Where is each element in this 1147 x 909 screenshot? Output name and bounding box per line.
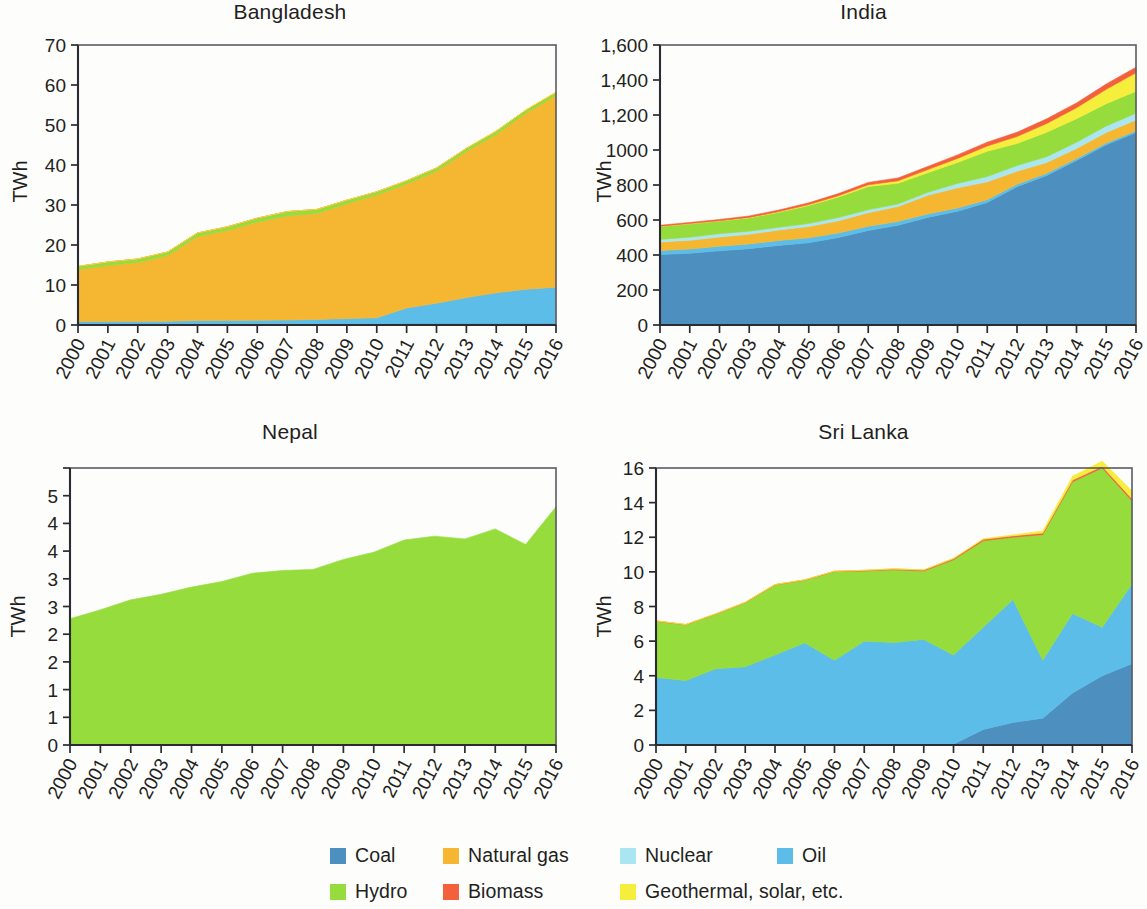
legend-item-nuclear: Nuclear: [620, 844, 713, 867]
y-tick-label: 1,200: [600, 105, 648, 126]
legend-item-natural-gas: Natural gas: [443, 844, 569, 867]
legend-item-biomass: Biomass: [443, 880, 543, 903]
legend-label-coal: Coal: [355, 844, 396, 867]
x-tick-label: 2002: [104, 755, 142, 802]
x-tick-label: 2010: [350, 335, 388, 382]
legend-label-biomass: Biomass: [468, 880, 543, 903]
y-tick-label: 3: [47, 597, 58, 618]
y-tick-label: 12: [623, 527, 644, 548]
x-tick-label: 2006: [225, 755, 263, 802]
legend-label-hydro: Hydro: [355, 880, 408, 903]
x-tick-label: 2015: [499, 335, 537, 382]
y-tick-label: 30: [45, 195, 66, 216]
y-tick-label: 0: [55, 315, 66, 336]
x-tick-label: 2001: [663, 335, 701, 382]
legend-label-nuclear: Nuclear: [645, 844, 713, 867]
plot-area-sri-lanka: 0246810121416200020012002200320042005200…: [580, 420, 1147, 840]
x-tick-label: 2001: [659, 755, 697, 802]
x-tick-label: 2015: [1075, 755, 1113, 802]
x-tick-label: 2006: [230, 335, 268, 382]
x-tick-label: 2012: [990, 335, 1028, 382]
area-series-natural-gas: [78, 96, 556, 322]
x-tick-label: 2004: [752, 335, 791, 383]
x-tick-label: 2007: [260, 335, 298, 382]
y-tick-label: 0: [633, 735, 644, 756]
legend-label-natural-gas: Natural gas: [468, 844, 569, 867]
x-tick-label: 2001: [81, 335, 119, 382]
x-tick-label: 2013: [440, 335, 478, 382]
y-tick-label: 400: [616, 245, 648, 266]
x-tick-label: 2000: [633, 335, 671, 382]
x-tick-label: 2009: [901, 335, 939, 382]
x-tick-label: 2012: [410, 335, 448, 382]
y-tick-label: 0: [47, 735, 58, 756]
x-tick-label: 2003: [718, 755, 756, 802]
x-tick-label: 2012: [986, 755, 1024, 802]
y-tick-label: 3: [47, 569, 58, 590]
y-tick-label: 200: [616, 280, 648, 301]
y-tick-label: 60: [45, 75, 66, 96]
x-tick-label: 2005: [782, 335, 820, 382]
x-tick-label: 2016: [529, 755, 567, 802]
y-tick-label: 2: [47, 652, 58, 673]
legend-swatch-coal: [330, 848, 346, 864]
legend-swatch-biomass: [443, 884, 459, 900]
x-tick-label: 2000: [51, 335, 89, 382]
x-tick-label: 2006: [812, 335, 850, 382]
x-tick-label: 2002: [693, 335, 731, 382]
x-tick-label: 2007: [837, 755, 875, 802]
x-tick-label: 2005: [778, 755, 816, 802]
x-tick-label: 2014: [469, 335, 508, 383]
plot-area-india: 020040060080010001,2001,4001,60020002001…: [580, 0, 1147, 420]
x-tick-label: 2001: [74, 755, 112, 802]
x-tick-label: 2003: [141, 335, 179, 382]
x-tick-label: 2013: [1020, 335, 1058, 382]
x-tick-label: 2005: [195, 755, 233, 802]
y-tick-label: 800: [616, 175, 648, 196]
x-tick-label: 2014: [468, 755, 507, 803]
x-tick-label: 2003: [722, 335, 760, 382]
chart-panel-sri-lanka: Sri Lanka TWh 02468101214162000200120022…: [580, 420, 1147, 840]
x-tick-label: 2009: [320, 335, 358, 382]
x-tick-label: 2000: [629, 755, 667, 802]
chart-panel-bangladesh: Bangladesh TWh 0102030405060702000200120…: [0, 0, 580, 420]
y-tick-label: 1: [47, 680, 58, 701]
y-tick-label: 14: [623, 493, 645, 514]
chart-legend: Coal Natural gas Nuclear Oil Hydro Bioma…: [0, 838, 1147, 909]
x-tick-label: 2016: [1105, 755, 1143, 802]
y-tick-label: 6: [633, 631, 644, 652]
x-tick-label: 2015: [499, 755, 537, 802]
y-tick-label: 20: [45, 235, 66, 256]
x-tick-label: 2004: [165, 755, 204, 803]
y-tick-label: 4: [633, 666, 644, 687]
figure-root: Bangladesh TWh 0102030405060702000200120…: [0, 0, 1147, 909]
y-tick-label: 8: [633, 597, 644, 618]
y-tick-label: 2: [47, 624, 58, 645]
x-tick-label: 2010: [927, 755, 965, 802]
legend-item-geothermal-solar: Geothermal, solar, etc.: [620, 880, 843, 903]
y-tick-label: 0: [637, 315, 648, 336]
legend-swatch-hydro: [330, 884, 346, 900]
x-tick-label: 2004: [171, 335, 210, 383]
y-tick-label: 10: [623, 562, 644, 583]
x-tick-label: 2009: [897, 755, 935, 802]
x-tick-label: 2014: [1046, 755, 1085, 803]
y-tick-label: 1,400: [600, 70, 648, 91]
x-tick-label: 2002: [689, 755, 727, 802]
x-tick-label: 2007: [841, 335, 879, 382]
x-tick-label: 2007: [256, 755, 294, 802]
y-tick-label: 50: [45, 115, 66, 136]
chart-panel-india: India TWh 020040060080010001,2001,4001,6…: [580, 0, 1147, 420]
y-tick-label: 10: [45, 275, 66, 296]
legend-swatch-oil: [777, 848, 793, 864]
plot-area-nepal: 0112233445200020012002200320042005200620…: [0, 420, 580, 840]
x-tick-label: 2010: [347, 755, 385, 802]
y-tick-label: 4: [47, 541, 58, 562]
x-tick-label: 2013: [438, 755, 476, 802]
area-series-hydro: [70, 507, 556, 745]
y-tick-label: 1000: [606, 140, 648, 161]
x-tick-label: 2008: [867, 755, 905, 802]
x-tick-label: 2008: [286, 755, 324, 802]
plot-area-bangladesh: 0102030405060702000200120022003200420052…: [0, 0, 580, 420]
legend-label-geothermal-solar: Geothermal, solar, etc.: [645, 880, 843, 903]
